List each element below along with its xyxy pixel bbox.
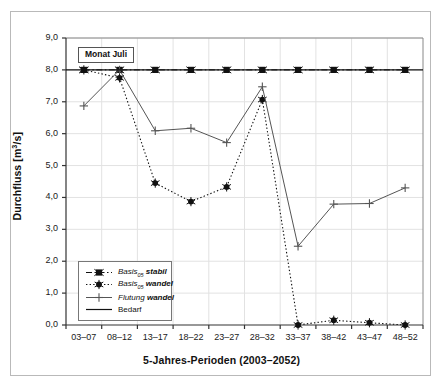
legend-sample-dash-dot-square-x <box>84 267 114 278</box>
x-axis-title: 5-Jahres-Perioden (2003–2052) <box>0 354 443 366</box>
y-tick-label: 7,0 <box>32 96 58 106</box>
x-tick-label: 48–52 <box>383 332 427 342</box>
legend-label: Basis05 stabil <box>118 267 167 278</box>
y-tick-label: 6,0 <box>32 128 58 138</box>
legend-item[interactable]: Basis05 wandel <box>84 278 164 291</box>
y-tick-label: 2,0 <box>32 255 58 265</box>
legend-label-main: Flutung <box>118 293 145 302</box>
y-axis-title-exponent: 3 <box>11 145 19 149</box>
y-tick-label: 8,0 <box>32 64 58 74</box>
figure-container: Monat Juli Basis05 stabilBasis05 wandelF… <box>0 0 443 388</box>
chart-plot <box>0 0 443 388</box>
annotation-monat: Monat Juli <box>78 47 134 63</box>
legend-sample-solid-plain <box>84 304 114 315</box>
legend-label-main: Bedarf <box>118 305 142 314</box>
legend-sample-solid-plus <box>84 292 114 303</box>
legend-label-tail: wandel <box>144 279 173 288</box>
legend-item[interactable]: Basis05 stabil <box>84 266 164 279</box>
y-tick-label: 0,0 <box>32 319 58 329</box>
y-tick-label: 1,0 <box>32 287 58 297</box>
y-axis-title: Durchfluss [m3/s] <box>11 96 24 256</box>
legend-label-tail: wandel <box>145 293 174 302</box>
legend-label: Bedarf <box>118 305 142 314</box>
y-tick-label: 5,0 <box>32 160 58 170</box>
chart-legend: Basis05 stabilBasis05 wandelFlutung wand… <box>78 261 172 321</box>
legend-label: Flutung wandel <box>118 293 174 302</box>
legend-label: Basis05 wandel <box>118 279 173 290</box>
legend-label-main: Basis <box>118 267 138 276</box>
y-axis-title-text: Durchfluss [m <box>11 149 23 221</box>
legend-item[interactable]: Flutung wandel <box>84 291 164 304</box>
y-axis-title-tail: /s] <box>11 132 23 145</box>
y-tick-label: 4,0 <box>32 191 58 201</box>
legend-label-tail: stabil <box>144 267 167 276</box>
legend-label-main: Basis <box>118 279 138 288</box>
legend-sample-dotted-star <box>84 279 114 290</box>
legend-item[interactable]: Bedarf <box>84 303 164 316</box>
y-tick-label: 3,0 <box>32 223 58 233</box>
y-tick-label: 9,0 <box>32 32 58 42</box>
